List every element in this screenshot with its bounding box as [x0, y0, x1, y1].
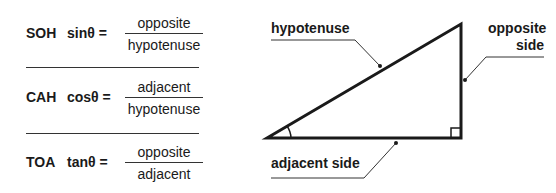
- hypotenuse-label: hypotenuse: [271, 20, 350, 36]
- hypotenuse-leader-dot: [378, 64, 382, 68]
- adjacent-leader-dot: [394, 141, 398, 145]
- theta-angle-arc: [287, 126, 291, 138]
- opposite-leader-dot: [463, 78, 467, 82]
- triangle-shape: [267, 24, 461, 138]
- opposite-label-line1: opposite: [488, 20, 544, 36]
- opposite-leader-line: [465, 57, 544, 80]
- opposite-label-line2: side: [488, 37, 544, 53]
- adjacent-label: adjacent side: [271, 155, 360, 171]
- hypotenuse-leader-line: [271, 40, 380, 66]
